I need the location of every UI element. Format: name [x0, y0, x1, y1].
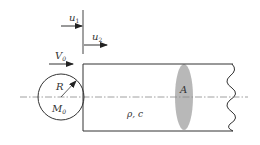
radius-label: R [55, 81, 64, 92]
impact-diagram: u1 u2 V0 R M0 ρ, c A [0, 0, 260, 145]
bar-break-line [227, 64, 236, 131]
material-properties-label: ρ, c [126, 109, 143, 119]
mass-label: M0 [51, 103, 66, 115]
v0-label: V0 [55, 50, 66, 62]
u1-label: u1 [69, 12, 79, 24]
u2-label: u2 [92, 31, 102, 43]
area-label: A [179, 84, 187, 95]
